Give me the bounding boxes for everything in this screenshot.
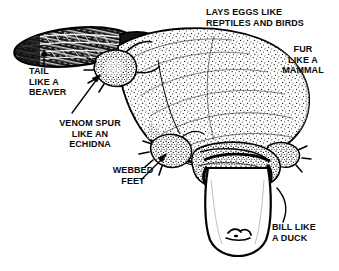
pointer-bill [277, 188, 286, 222]
platypus-diagram: LAYS EGGS LIKE REPTILES AND BIRDS FUR LI… [0, 0, 339, 271]
label-fur: FUR LIKE A MAMMAL [272, 44, 334, 76]
pointer-venom-spur [72, 75, 100, 113]
label-bill: BILL LIKE A DUCK [272, 222, 316, 243]
label-lays-eggs: LAYS EGGS LIKE REPTILES AND BIRDS [206, 7, 304, 28]
label-tail: TAIL LIKE A BEAVER [29, 66, 66, 98]
label-webbed-feet: WEBBED FEET [102, 165, 164, 186]
label-venom-spur: VENOM SPUR LIKE AN ECHIDNA [47, 118, 133, 150]
bill-shape [205, 168, 271, 256]
